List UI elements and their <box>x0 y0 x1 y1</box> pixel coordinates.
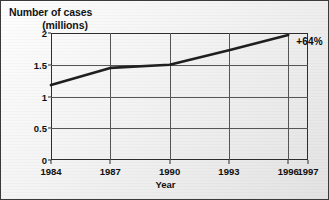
data-series-line <box>51 33 308 160</box>
chart-title-line-1: Number of cases <box>7 6 135 19</box>
y-tick-label: 1.5 <box>34 59 47 70</box>
y-tick-label: 2 <box>42 28 47 39</box>
x-tick-mark <box>228 160 229 164</box>
x-tick-label: 1993 <box>218 166 239 177</box>
x-tick-label: 1984 <box>40 166 61 177</box>
growth-annotation: +64% <box>296 35 323 46</box>
x-tick-label: 1987 <box>100 166 121 177</box>
y-tick-label: 1 <box>42 91 47 102</box>
x-tick-mark <box>288 160 289 164</box>
chart-title: Number of cases (millions) <box>7 6 135 31</box>
x-tick-mark <box>51 160 52 164</box>
x-axis-label: Year <box>1 179 329 190</box>
y-tick-label: 0 <box>42 155 47 166</box>
x-tick-label: 1990 <box>159 166 180 177</box>
plot-area: 00.511.52 198419871990199319961997 <box>51 33 308 160</box>
x-tick-mark <box>169 160 170 164</box>
x-tick-label: 1996 <box>278 166 299 177</box>
chart-title-line-2: (millions) <box>7 19 135 32</box>
y-tick-label: 0.5 <box>34 123 47 134</box>
chart-figure: Number of cases (millions) 00.511.52 198… <box>0 0 329 200</box>
x-tick-mark <box>308 160 309 164</box>
x-tick-label: 1997 <box>297 166 318 177</box>
x-tick-mark <box>110 160 111 164</box>
